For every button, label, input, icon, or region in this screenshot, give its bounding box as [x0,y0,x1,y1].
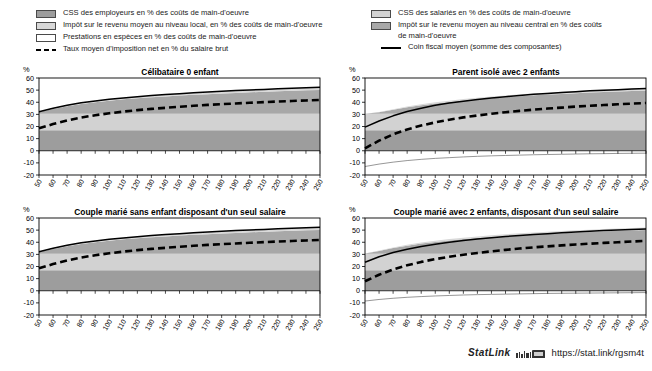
svg-text:70: 70 [387,318,397,328]
legend-column-left: CSS des employeurs en % des coûts de mai… [36,8,336,56]
svg-text:170: 170 [200,178,212,192]
svg-text:50: 50 [352,86,360,95]
svg-text:200: 200 [242,318,254,332]
legend-item-benefits: Prestations en espèces en % des coûts de… [36,32,336,43]
svg-text:160: 160 [186,178,198,192]
svg-text:50: 50 [26,86,34,95]
legend-item-tax-local: Impôt sur le revenu moyen au niveau loca… [36,20,336,31]
svg-text:250: 250 [312,318,324,332]
chart-panel-celibataire-0-enfant: % Célibataire 0 enfant -20-1001020304050… [0,62,326,202]
svg-text:210: 210 [256,318,268,332]
svg-text:50: 50 [26,226,34,235]
chart-panel-couple-marie-2-enfants: % Couple marié avec 2 enfants, disposant… [326,202,652,342]
legend-swatch-tax-central-icon [371,22,391,30]
svg-text:230: 230 [610,318,622,332]
svg-text:120: 120 [456,318,468,332]
legend-column-right: CSS des salariés en % des coûts de main-… [371,8,651,54]
legend-label-benefits: Prestations en espèces en % des coûts de… [63,32,257,43]
svg-text:200: 200 [568,178,580,192]
chart-legend: CSS des employeurs en % des coûts de mai… [0,8,652,60]
statlink-wordmark: StatLink [468,347,511,358]
svg-text:60: 60 [352,214,360,223]
plot-area: -20-100102030405060506070809010011012013… [0,202,326,342]
svg-text:80: 80 [401,178,411,188]
svg-text:200: 200 [568,318,580,332]
svg-text:0: 0 [356,146,360,155]
svg-text:0: 0 [30,146,34,155]
svg-text:60: 60 [47,178,57,188]
legend-label-tax-local: Impôt sur le revenu moyen au niveau loca… [63,20,322,31]
svg-text:220: 220 [270,178,282,192]
svg-text:240: 240 [298,318,310,332]
legend-item-net-rate: Taux moyen d'imposition net en % du sala… [36,44,336,55]
svg-text:40: 40 [352,238,360,247]
svg-text:70: 70 [387,178,397,188]
svg-text:140: 140 [484,178,496,192]
svg-text:250: 250 [638,318,650,332]
svg-text:140: 140 [484,318,496,332]
svg-text:30: 30 [352,250,360,259]
plot-area: -20-100102030405060506070809010011012013… [0,62,326,202]
svg-text:50: 50 [359,318,369,328]
svg-text:100: 100 [101,318,113,332]
legend-item-sal-ssc: CSS des salariés en % des coûts de main-… [371,8,651,19]
legend-label-wedge: Coin fiscal moyen (somme des composantes… [408,42,562,53]
svg-text:30: 30 [26,110,34,119]
svg-text:10: 10 [352,274,360,283]
svg-text:240: 240 [624,178,636,192]
svg-text:30: 30 [26,250,34,259]
svg-text:180: 180 [540,318,552,332]
svg-text:-20: -20 [350,311,360,320]
svg-text:160: 160 [512,318,524,332]
svg-text:190: 190 [554,318,566,332]
svg-text:180: 180 [540,178,552,192]
svg-text:90: 90 [415,318,425,328]
legend-swatch-sal-ssc-icon [371,10,391,18]
legend-swatch-tax-local-icon [36,22,56,30]
svg-text:20: 20 [26,262,34,271]
svg-text:170: 170 [200,318,212,332]
svg-text:60: 60 [352,74,360,83]
svg-text:40: 40 [26,238,34,247]
legend-swatch-emp-ssc-icon [36,10,56,18]
svg-text:10: 10 [352,134,360,143]
svg-text:70: 70 [61,318,71,328]
svg-text:170: 170 [526,178,538,192]
svg-text:-20: -20 [24,311,34,320]
legend-swatch-net-rate-icon [36,46,56,54]
svg-text:210: 210 [582,178,594,192]
svg-text:240: 240 [624,318,636,332]
statlink-url: https://stat.link/rgsm4t [552,347,644,358]
svg-text:180: 180 [214,178,226,192]
svg-text:-20: -20 [350,171,360,180]
chart-panel-parent-isole-2-enfants: % Parent isolé avec 2 enfants -20-100102… [326,62,652,202]
svg-text:190: 190 [228,178,240,192]
svg-text:230: 230 [610,178,622,192]
svg-text:60: 60 [373,318,383,328]
svg-text:120: 120 [130,178,142,192]
svg-text:220: 220 [596,178,608,192]
svg-text:50: 50 [33,178,43,188]
svg-text:120: 120 [456,178,468,192]
svg-text:100: 100 [101,178,113,192]
svg-text:110: 110 [442,318,454,331]
svg-text:180: 180 [214,318,226,332]
svg-text:250: 250 [312,178,324,192]
svg-text:100: 100 [427,318,439,332]
chart-panel-couple-marie-sans-enfant: % Couple marié sans enfant disposant d'u… [0,202,326,342]
svg-text:130: 130 [144,318,156,332]
svg-text:20: 20 [352,122,360,131]
svg-text:150: 150 [172,318,184,332]
statlink-footer: StatLink https://stat.link/rgsm4t [0,342,652,362]
svg-text:-10: -10 [24,298,34,307]
svg-text:110: 110 [116,178,128,191]
svg-text:190: 190 [554,178,566,192]
svg-text:60: 60 [26,214,34,223]
svg-text:140: 140 [158,318,170,332]
svg-text:210: 210 [256,178,268,192]
svg-text:220: 220 [596,318,608,332]
svg-text:50: 50 [33,318,43,328]
svg-text:10: 10 [26,274,34,283]
plot-area: -20-100102030405060506070809010011012013… [326,202,652,342]
svg-text:20: 20 [26,122,34,131]
